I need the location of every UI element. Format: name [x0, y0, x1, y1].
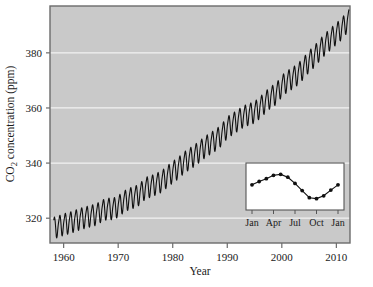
inset-tick-label-Jan: Jan — [245, 217, 258, 228]
x-tick-label-1990: 1990 — [216, 251, 239, 263]
chart-svg: 320340360380 196019701980199020002010 CO… — [0, 0, 373, 287]
inset-tick-label-Jul: Jul — [289, 217, 301, 228]
x-axis-title: Year — [189, 265, 210, 277]
inset-marker-May — [279, 172, 283, 176]
inset-marker-Jun — [286, 175, 290, 179]
x-tick-label-1980: 1980 — [162, 251, 185, 263]
inset-tick-label-Jan: Jan — [331, 217, 344, 228]
y-tick-label-340: 340 — [26, 157, 43, 169]
y-tick-label-320: 320 — [26, 212, 43, 224]
inset-marker-Aug — [300, 189, 304, 193]
inset-background — [246, 163, 344, 210]
x-tick-label-1970: 1970 — [107, 251, 130, 263]
inset-marker-Dec — [329, 188, 333, 192]
inset-marker-Nov — [322, 194, 326, 198]
inset-marker-Apr — [272, 173, 276, 177]
inset-marker-Sep — [307, 196, 311, 200]
inset-marker-Oct — [315, 197, 319, 201]
inset-tick-label-Oct: Oct — [309, 217, 324, 228]
inset-marker-Feb — [257, 180, 261, 184]
x-tick-label-1960: 1960 — [53, 251, 76, 263]
y-tick-label-380: 380 — [26, 47, 43, 59]
x-tick-label-2010: 2010 — [325, 251, 348, 263]
y-tick-label-360: 360 — [26, 102, 43, 114]
inset-marker-Mar — [264, 177, 268, 181]
inset-marker-Jan — [336, 183, 340, 187]
inset-marker-Jan — [250, 183, 254, 187]
inset-marker-Jul — [293, 182, 297, 186]
inset-tick-label-Apr: Apr — [266, 217, 282, 228]
co2-keeling-curve-figure: 320340360380 196019701980199020002010 CO… — [0, 0, 373, 287]
x-tick-label-2000: 2000 — [271, 251, 294, 263]
